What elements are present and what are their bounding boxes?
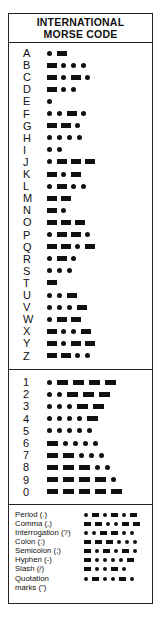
dash-icon [63, 477, 74, 482]
morse-code [47, 144, 67, 156]
morse-code [47, 486, 127, 498]
dot-icon [122, 513, 126, 517]
dot-icon [57, 428, 62, 433]
dot-icon [67, 268, 72, 273]
morse-code [47, 277, 61, 289]
character-label: 6 [23, 437, 35, 449]
morse-code [47, 120, 85, 132]
dot-icon [79, 453, 84, 458]
morse-code [47, 192, 75, 204]
morse-code [47, 108, 91, 120]
number-row: 4 [9, 413, 152, 425]
letter-row: V [9, 301, 152, 313]
dot-icon [75, 123, 80, 128]
dot-icon [47, 111, 52, 116]
character-label: H [23, 132, 35, 144]
morse-code [47, 325, 95, 337]
dash-icon [119, 577, 126, 581]
letter-row: M [9, 192, 152, 204]
character-label: Y [23, 337, 35, 349]
morse-code [47, 301, 91, 313]
dot-icon [133, 540, 137, 544]
dot-icon [47, 416, 52, 421]
number-row: 1 [9, 376, 152, 388]
letter-row: A [9, 47, 152, 59]
number-row: 2 [9, 388, 152, 400]
character-label: D [23, 83, 35, 95]
dot-icon [67, 416, 72, 421]
dot-icon [47, 305, 52, 310]
letter-row: P [9, 229, 152, 241]
dot-icon [95, 465, 100, 470]
morse-code [47, 241, 99, 253]
dot-icon [114, 549, 118, 553]
dash-icon [106, 540, 113, 544]
dash-icon [67, 392, 78, 397]
dot-icon [71, 184, 76, 189]
dot-icon [77, 135, 82, 140]
dash-icon [122, 549, 129, 553]
morse-code [47, 376, 121, 388]
dash-icon [75, 220, 85, 225]
character-label: 9 [23, 474, 35, 486]
dot-icon [87, 428, 92, 433]
dot-icon [67, 305, 72, 310]
dot-icon [67, 135, 72, 140]
dash-icon [47, 220, 57, 225]
dash-icon [61, 196, 71, 201]
morse-code [47, 474, 121, 486]
dot-icon [57, 416, 62, 421]
letter-row: O [9, 216, 152, 228]
punctuation-label: Comma (,) [15, 519, 52, 528]
dash-icon [67, 111, 77, 116]
dash-icon [47, 280, 57, 285]
dot-icon [47, 404, 52, 409]
dash-icon [84, 558, 91, 562]
dot-icon [77, 428, 82, 433]
dash-icon [105, 380, 116, 385]
punctuation-label: Semicolon (;) [15, 546, 61, 555]
dash-icon [47, 341, 57, 346]
character-label: U [23, 289, 35, 301]
character-label: T [23, 277, 35, 289]
dash-icon [47, 477, 58, 482]
character-label: X [23, 325, 35, 337]
character-label: L [23, 180, 35, 192]
morse-code [47, 350, 95, 362]
dot-icon [47, 293, 52, 298]
morse-code [84, 511, 141, 520]
dash-icon [77, 305, 87, 310]
dash-icon [111, 531, 118, 535]
dash-icon [95, 489, 106, 494]
dot-icon [47, 428, 52, 433]
letters-section: ABCDEFGHIJKLMNOPQRSTUVWXYZ [9, 44, 152, 370]
letter-row: C [9, 71, 152, 83]
morse-code [47, 337, 99, 349]
dot-icon [117, 540, 121, 544]
character-label: 8 [23, 461, 35, 473]
dot-icon [133, 549, 137, 553]
dot-icon [89, 453, 94, 458]
dot-icon [103, 577, 107, 581]
dash-icon [61, 220, 71, 225]
letter-row: L [9, 180, 152, 192]
letter-row: T [9, 277, 152, 289]
character-label: A [23, 47, 35, 59]
dash-icon [93, 404, 104, 409]
dash-icon [47, 208, 57, 213]
morse-code [84, 556, 138, 565]
morse-code [47, 229, 95, 241]
dash-icon [130, 513, 137, 517]
punctuation-label-line-2: marks (") [15, 583, 49, 592]
dot-icon [47, 392, 52, 397]
character-label: E [23, 95, 35, 107]
morse-code [47, 132, 87, 144]
dot-icon [57, 392, 62, 397]
character-label: W [23, 313, 35, 325]
character-label: 4 [23, 413, 35, 425]
dot-icon [61, 63, 66, 68]
character-label: F [23, 108, 35, 120]
character-label: 2 [23, 388, 35, 400]
dash-icon [47, 489, 58, 494]
dash-icon [63, 489, 74, 494]
